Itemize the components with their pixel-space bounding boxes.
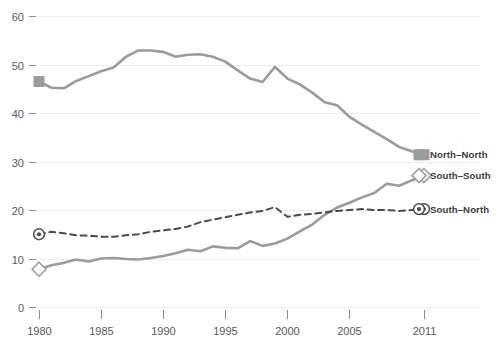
legend-marker-0 xyxy=(414,149,425,160)
x-axis-tick-label: 1985 xyxy=(89,325,113,337)
line-chart: 0102030405060 19801985199019952000200520… xyxy=(0,0,496,363)
x-axis-tick-label: 1995 xyxy=(213,325,237,337)
y-axis-tick-label: 0 xyxy=(18,302,24,314)
legend-marker-2-center xyxy=(417,207,421,211)
x-axis-tick-label: 1980 xyxy=(27,325,51,337)
x-axis-tick-label: 2005 xyxy=(337,325,361,337)
y-axis-tick-label: 60 xyxy=(12,11,24,23)
legend-label: South–North xyxy=(430,204,489,215)
x-axis-tick-label: 2011 xyxy=(413,325,437,337)
marker-start-south-north-center xyxy=(37,232,41,236)
marker-start-north-north xyxy=(34,76,45,87)
y-axis-tick-label: 10 xyxy=(12,254,24,266)
chart-container: 0102030405060 19801985199019952000200520… xyxy=(0,0,496,363)
x-axis-tick-label: 2000 xyxy=(275,325,299,337)
y-axis-tick-label: 50 xyxy=(12,60,24,72)
legend-label: North–North xyxy=(430,149,488,160)
x-axis-tick-label: 1990 xyxy=(151,325,175,337)
y-axis-tick-label: 40 xyxy=(12,108,24,120)
legend-label: South–South xyxy=(430,170,491,181)
chart-background xyxy=(0,0,496,363)
y-axis-tick-label: 30 xyxy=(12,157,24,169)
y-axis-tick-label: 20 xyxy=(12,205,24,217)
